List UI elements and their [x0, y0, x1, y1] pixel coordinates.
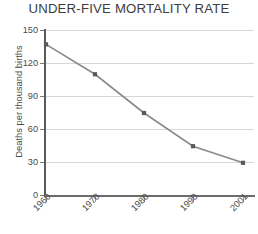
chart-container: UNDER-FIVE MORTALITY RATE Deaths per tho…	[0, 0, 258, 234]
data-point-2001	[241, 161, 245, 165]
data-series-layer	[0, 0, 258, 234]
series-line	[46, 44, 243, 162]
data-point-1990	[191, 144, 195, 148]
data-point-1980	[142, 111, 146, 115]
data-point-1960	[44, 42, 48, 46]
data-point-1970	[93, 72, 97, 76]
